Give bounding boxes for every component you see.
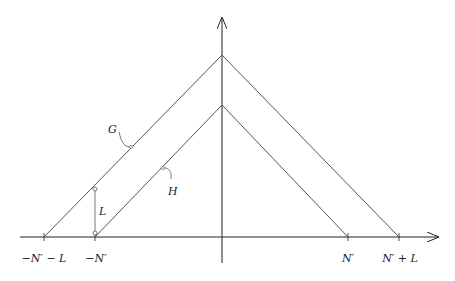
tick-label-neg-n-minus-l: −N′ − L: [22, 252, 67, 265]
tent-diagram: G H L −N′ − L −N′ N′ N′ + L: [0, 0, 455, 281]
tick-label-neg-n: −N′: [85, 252, 107, 265]
tick-label-n: N′: [341, 252, 355, 265]
g-leader-icon: [119, 132, 130, 147]
h-leader-icon: [165, 168, 171, 179]
label-g: G: [108, 123, 117, 136]
gap-bottom-marker: [93, 231, 97, 235]
tick-label-n-plus-l: N′ + L: [381, 252, 418, 265]
gap-top-marker: [93, 187, 97, 191]
label-h: H: [167, 185, 178, 198]
label-l: L: [98, 205, 106, 218]
